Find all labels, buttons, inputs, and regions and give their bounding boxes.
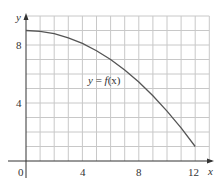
- x-tick-4: 4: [80, 166, 86, 178]
- x-tick-8: 8: [136, 166, 142, 178]
- origin-label: 0: [18, 166, 24, 178]
- x-axis-label: x: [207, 165, 213, 177]
- y-axis-label: y: [15, 11, 21, 23]
- y-tick-4: 4: [16, 97, 22, 109]
- chart: y x 0 4 8 12 8 4 y = f(x): [0, 0, 221, 187]
- grid: [26, 16, 209, 161]
- y-tick-8: 8: [16, 39, 22, 51]
- x-axis-arrow-icon: [207, 159, 214, 164]
- x-tick-12: 12: [188, 166, 199, 178]
- curve-label: y = f(x): [87, 74, 121, 87]
